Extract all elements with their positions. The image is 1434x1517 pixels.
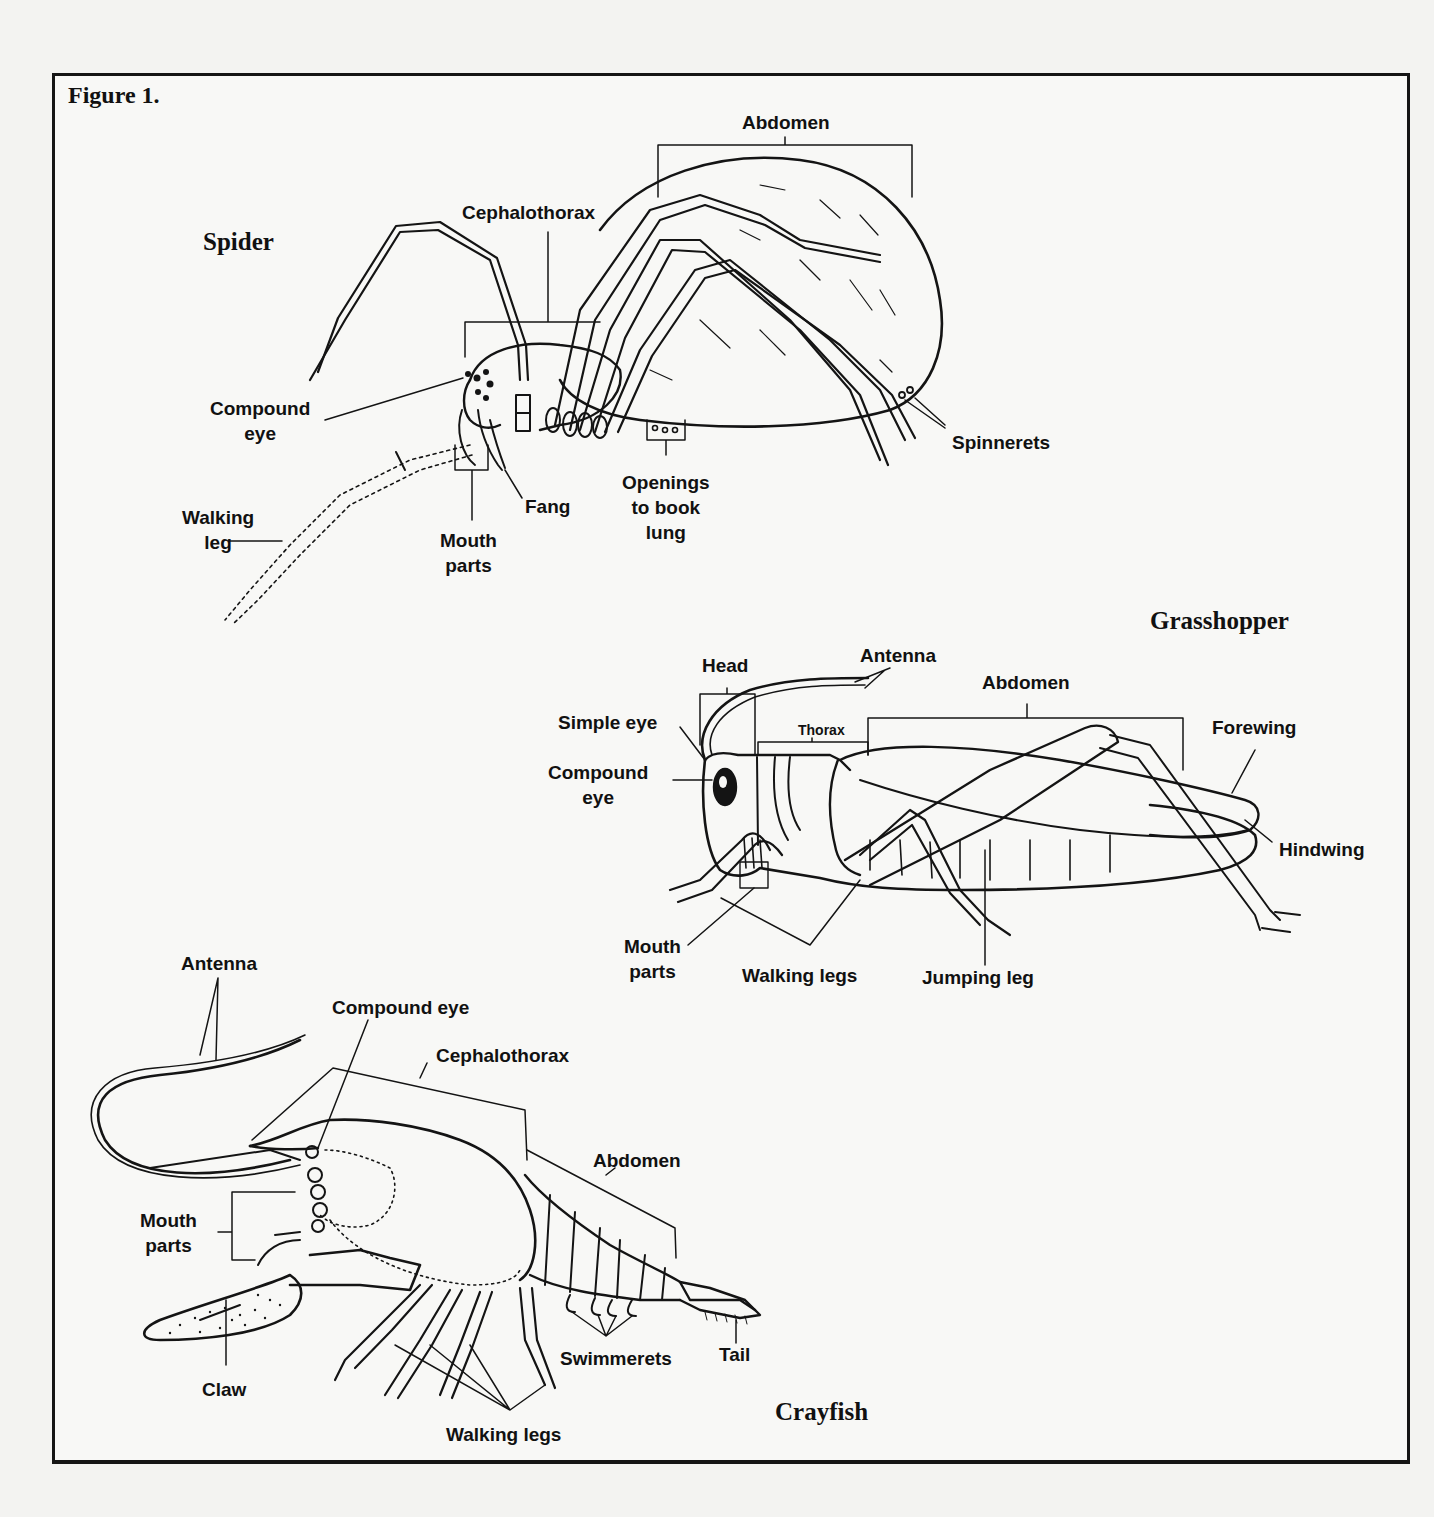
crayfish-label-swimmerets: Swimmerets xyxy=(560,1346,672,1371)
grasshopper-label-forewing: Forewing xyxy=(1212,715,1296,740)
crayfish-title: Crayfish xyxy=(775,1398,868,1426)
spider-label-walking-leg: Walking leg xyxy=(182,505,254,555)
grasshopper-label-simple-eye: Simple eye xyxy=(558,710,657,735)
spider-label-abdomen: Abdomen xyxy=(742,110,830,135)
grasshopper-label-mouth-parts: Mouth parts xyxy=(624,934,681,984)
grasshopper-label-antenna: Antenna xyxy=(860,643,936,668)
spider-label-openings-book-lung: Openings to book lung xyxy=(622,470,710,545)
grasshopper-label-walking-legs: Walking legs xyxy=(742,963,857,988)
spider-label-fang: Fang xyxy=(525,494,570,519)
crayfish-label-mouth-parts: Mouth parts xyxy=(140,1208,197,1258)
figure-title: Figure 1. xyxy=(68,82,160,109)
grasshopper-title: Grasshopper xyxy=(1150,607,1289,635)
grasshopper-label-head: Head xyxy=(702,653,748,678)
grasshopper-drawing xyxy=(670,668,1300,965)
grasshopper-label-compound-eye: Compound eye xyxy=(548,760,648,810)
spider-label-mouth-parts: Mouth parts xyxy=(440,528,497,578)
spider-title: Spider xyxy=(203,228,274,256)
crayfish-label-abdomen: Abdomen xyxy=(593,1148,681,1173)
crayfish-label-antenna: Antenna xyxy=(181,951,257,976)
spider-label-spinnerets: Spinnerets xyxy=(952,430,1050,455)
crayfish-label-claw: Claw xyxy=(202,1377,246,1402)
crayfish-label-walking-legs: Walking legs xyxy=(446,1422,561,1447)
grasshopper-label-jumping-leg: Jumping leg xyxy=(922,965,1034,990)
crayfish-label-tail: Tail xyxy=(719,1342,750,1367)
spider-label-cephalothorax: Cephalothorax xyxy=(462,200,595,225)
crayfish-label-compound-eye: Compound eye xyxy=(332,995,469,1020)
grasshopper-label-hindwing: Hindwing xyxy=(1279,837,1364,862)
crayfish-label-cephalothorax: Cephalothorax xyxy=(436,1043,569,1068)
spider-label-compound-eye: Compound eye xyxy=(210,396,310,446)
grasshopper-label-abdomen: Abdomen xyxy=(982,670,1070,695)
grasshopper-label-thorax: Thorax xyxy=(798,718,845,743)
